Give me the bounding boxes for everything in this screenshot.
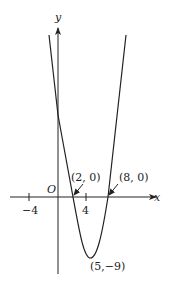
y-axis-label: y	[54, 11, 62, 24]
root2-label: (8, 0)	[119, 171, 149, 184]
vertex-label: (5,−9)	[90, 260, 125, 273]
parabola-graph: y x O −4 4 (2, 0) (8, 0) (5,−9)	[0, 0, 177, 281]
parabola-curve	[49, 35, 126, 258]
root1-pointer	[74, 184, 83, 195]
tick-label-4: 4	[82, 204, 89, 217]
root1-label: (2, 0)	[71, 171, 101, 184]
root2-pointer	[109, 184, 118, 195]
tick-label-neg4: −4	[22, 204, 38, 217]
x-axis-label: x	[154, 191, 161, 204]
origin-label: O	[47, 183, 56, 196]
